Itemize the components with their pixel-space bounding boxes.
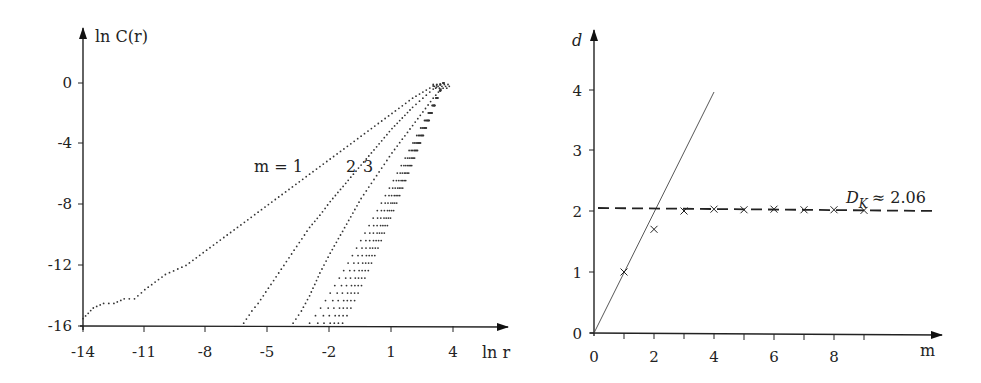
dk-dashed-line xyxy=(598,208,935,211)
left-xtick-1: -11 xyxy=(132,343,156,361)
right-xtick-0: 0 xyxy=(589,348,599,366)
dk-label: DK≈ 2.06 xyxy=(845,188,926,211)
label-m2: 2 xyxy=(346,157,356,176)
correlation-sum-curves xyxy=(82,82,450,324)
right-ytick-3: 3 xyxy=(572,142,582,160)
left-xtick-6: 4 xyxy=(448,343,458,361)
left-ytick-4: -16 xyxy=(48,317,72,335)
right-y-axis-label: d xyxy=(572,31,582,50)
left-ytick-1: -4 xyxy=(57,134,72,152)
right-ytick-0: 0 xyxy=(572,325,582,343)
right-xtick-4: 4 xyxy=(709,348,719,366)
identity-line xyxy=(594,92,714,333)
right-ytick-4: 4 xyxy=(572,82,582,100)
left-x-axis-label: ln r xyxy=(482,343,511,362)
right-xtick-8: 8 xyxy=(829,348,839,366)
left-ytick-0: 0 xyxy=(62,74,72,92)
label-m3: 3 xyxy=(363,157,373,176)
left-ytick-2: -8 xyxy=(57,195,72,213)
right-xtick-6: 6 xyxy=(769,348,779,366)
label-m1: m = 1 xyxy=(254,157,303,176)
left-chart: 0 -4 -8 -12 -16 -14 -11 -8 -5 -2 1 4 ln … xyxy=(48,27,511,362)
right-x-ticks: 0 2 4 6 8 xyxy=(589,333,864,366)
left-y-axis-label: ln C(r) xyxy=(95,27,148,46)
right-x-axis-label: m xyxy=(920,341,935,360)
left-xtick-4: -2 xyxy=(322,343,337,361)
left-xtick-3: -5 xyxy=(260,343,275,361)
left-x-ticks: -14 -11 -8 -5 -2 1 4 xyxy=(71,326,458,361)
right-y-ticks: 0 1 2 3 4 xyxy=(572,82,594,343)
right-chart: 0 1 2 3 4 0 2 4 6 8 d m xyxy=(572,30,942,366)
right-ytick-2: 2 xyxy=(572,203,582,221)
dimension-estimates xyxy=(621,206,868,276)
left-xtick-0: -14 xyxy=(71,343,95,361)
left-xtick-2: -8 xyxy=(198,343,213,361)
right-ytick-1: 1 xyxy=(572,264,582,282)
right-xtick-2: 2 xyxy=(649,348,659,366)
left-y-ticks: 0 -4 -8 -12 -16 xyxy=(48,74,83,335)
left-xtick-5: 1 xyxy=(386,343,396,361)
right-x-axis xyxy=(590,333,942,335)
left-ytick-3: -12 xyxy=(48,256,72,274)
figure: 0 -4 -8 -12 -16 -14 -11 -8 -5 -2 1 4 ln … xyxy=(0,0,981,383)
